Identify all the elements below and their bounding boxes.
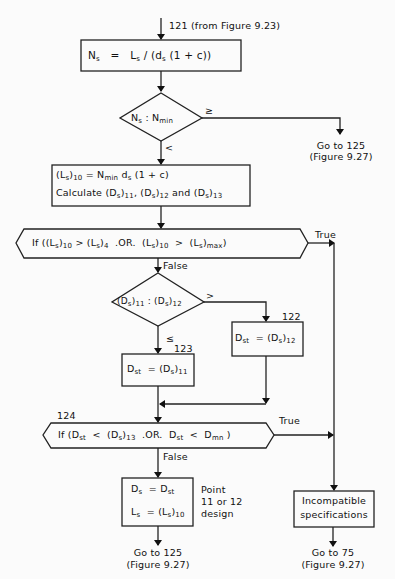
- incompatible-line1: Incompatible: [294, 496, 374, 506]
- point-note-line2: 11 or 12: [201, 497, 243, 507]
- if-ls-false-label: False: [163, 261, 188, 271]
- ds-compare-text: (Ds)11 : (Ds)12: [117, 297, 182, 308]
- gt-branch-label: >: [206, 291, 214, 301]
- ls10-formula: (Ls)10 = Nmin ds (1 + c): [56, 170, 169, 182]
- ls-eq-ls10: Ls = (Ls)10: [131, 507, 185, 519]
- entry-label: 121 (from Figure 9.23): [169, 21, 280, 31]
- if-ls-condition: If ((Ls)10 > (Ls)4 .OR. (Ls)10 > (Ls)max…: [32, 238, 227, 250]
- step-number-122: 122: [282, 312, 301, 322]
- ge-branch-label: ≥: [205, 106, 213, 116]
- if-dst-condition: If (Dst < (Ds)13 .OR. Dst < Dmn ): [58, 430, 231, 442]
- dst-eq-ds12: Dst = (Ds)12: [235, 333, 296, 345]
- if-dst-false-label: False: [163, 452, 188, 462]
- step-number-124: 124: [57, 411, 76, 421]
- goto-75-line1: Go to 75: [303, 548, 363, 558]
- point-note-line3: design: [201, 509, 234, 519]
- goto-125-bottom-line2: (Figure 9.27): [123, 560, 193, 570]
- flowchart-connectors: [0, 0, 395, 579]
- step-number-123: 123: [174, 344, 193, 354]
- lt-branch-label: <: [165, 143, 173, 153]
- incompatible-line2: specifications: [294, 510, 374, 520]
- if-ls-true-label: True: [315, 230, 336, 240]
- calculate-ds-text: Calculate (Ds)11, (Ds)12 and (Ds)13: [56, 188, 222, 200]
- dst-eq-ds11: Dst = (Ds)11: [127, 364, 188, 376]
- goto-125-top-line1: Go to 125: [310, 141, 372, 151]
- le-branch-label: ≤: [166, 334, 174, 344]
- goto-75-line2: (Figure 9.27): [298, 560, 368, 570]
- ns-formula: Ns = Ls / (ds (1 + c)): [88, 50, 211, 63]
- ns-compare-text: Ns : Nmin: [131, 113, 173, 125]
- goto-125-bottom-line1: Go to 125: [128, 548, 188, 558]
- point-note-line1: Point: [201, 485, 226, 495]
- if-dst-true-label: True: [279, 416, 300, 426]
- ds-eq-dst: Ds = Dst: [131, 484, 175, 496]
- goto-125-top-line2: (Figure 9.27): [306, 152, 376, 162]
